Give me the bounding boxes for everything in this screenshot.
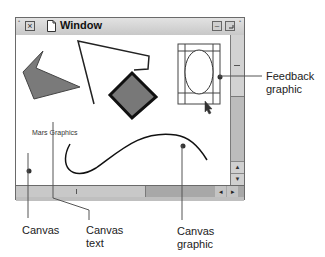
canvas-callout: Canvas — [22, 224, 59, 237]
callout-line-1: Canvas — [177, 225, 214, 238]
canvas-graphic-callout: Canvas graphic — [177, 225, 214, 251]
callout-line-1: Feedback — [266, 70, 314, 83]
callout-line-1: Canvas — [22, 224, 59, 237]
callout-line-1: Canvas — [86, 224, 123, 237]
feedback-graphic-callout: Feedback graphic — [266, 70, 314, 96]
callout-line-2: graphic — [177, 238, 214, 251]
callout-line-2: graphic — [266, 83, 314, 96]
callout-line-2: text — [86, 237, 123, 250]
canvas-text-callout: Canvas text — [86, 224, 123, 250]
callout-lines — [0, 0, 325, 257]
